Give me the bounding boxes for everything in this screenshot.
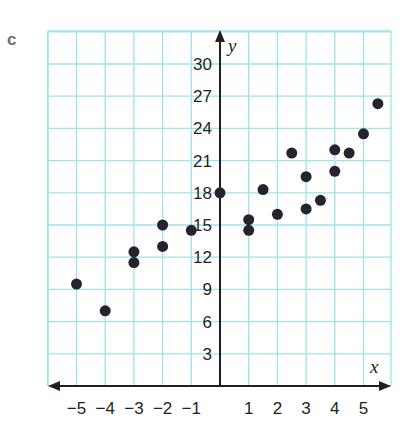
- svg-text:3: 3: [203, 345, 212, 364]
- svg-text:24: 24: [193, 119, 212, 138]
- svg-text:27: 27: [193, 87, 212, 106]
- svg-text:y: y: [226, 35, 237, 56]
- svg-text:−1: −1: [182, 399, 201, 418]
- svg-text:12: 12: [193, 248, 212, 267]
- svg-text:1: 1: [244, 399, 253, 418]
- svg-text:5: 5: [359, 399, 368, 418]
- svg-text:2: 2: [273, 399, 282, 418]
- svg-text:21: 21: [193, 152, 212, 171]
- svg-text:18: 18: [193, 184, 212, 203]
- svg-text:−5: −5: [67, 399, 86, 418]
- svg-text:9: 9: [203, 280, 212, 299]
- data-points: [71, 98, 383, 316]
- svg-text:−2: −2: [153, 399, 172, 418]
- tick-labels: −5−4−3−2−11234536912151821242730: [67, 55, 368, 418]
- svg-text:−4: −4: [96, 399, 115, 418]
- scatter-plot: xy −5−4−3−2−11234536912151821242730: [0, 0, 415, 434]
- axes: xy: [48, 30, 391, 391]
- svg-text:6: 6: [203, 313, 212, 332]
- svg-text:3: 3: [301, 399, 310, 418]
- svg-text:4: 4: [330, 399, 339, 418]
- svg-text:x: x: [369, 356, 379, 377]
- svg-text:−3: −3: [124, 399, 143, 418]
- svg-text:30: 30: [193, 55, 212, 74]
